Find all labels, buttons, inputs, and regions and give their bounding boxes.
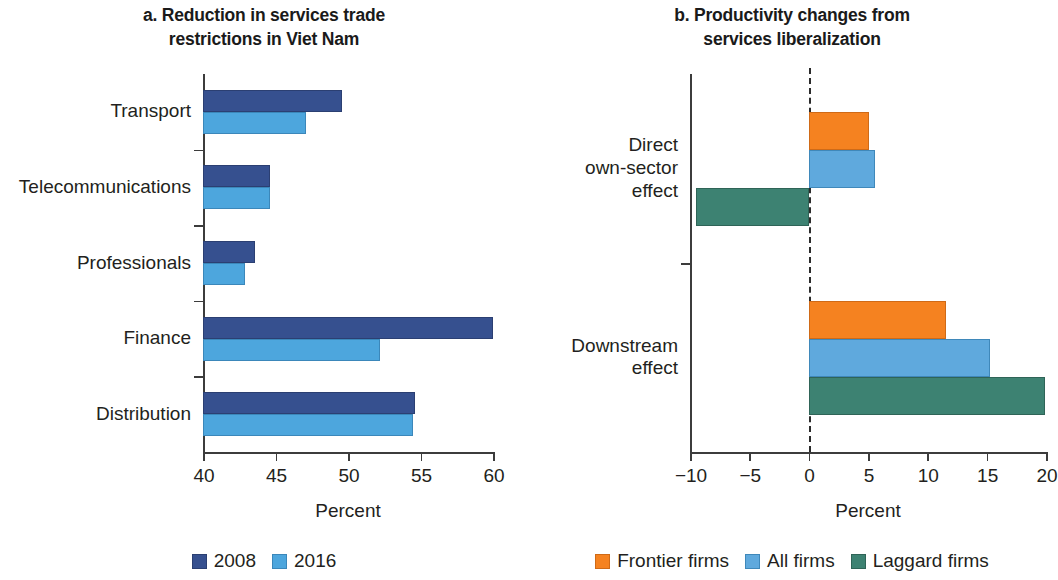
bar-2016-professionals — [203, 263, 245, 285]
y-category-label: Finance — [0, 327, 191, 350]
bar-laggard-firms-downstream-effect — [809, 377, 1045, 415]
y-category-label: Distribution — [0, 403, 191, 426]
panel-b-legend: Frontier firms All firms Laggard firms — [528, 550, 1056, 572]
x-tick — [690, 452, 692, 461]
x-tick — [421, 452, 423, 461]
legend-label-2008: 2008 — [214, 550, 256, 572]
x-tick — [203, 452, 205, 461]
legend-label-frontier-firms: Frontier firms — [617, 550, 729, 572]
x-tick-label: −10 — [675, 465, 707, 487]
x-tick — [749, 452, 751, 461]
panel-b: b. Productivity changes from services li… — [528, 0, 1056, 580]
panel-a-plot-area: 4045505560PercentTransportTelecommunicat… — [203, 74, 493, 452]
x-axis-title: Percent — [690, 500, 1046, 522]
x-tick-label: −5 — [739, 465, 761, 487]
bar-all-firms-direct-own-sector-effect — [809, 150, 875, 188]
x-tick-label: 10 — [918, 465, 939, 487]
x-tick-label: 60 — [483, 465, 504, 487]
bar-laggard-firms-direct-own-sector-effect — [696, 188, 809, 226]
x-tick-label: 55 — [411, 465, 432, 487]
legend-item-laggard-firms: Laggard firms — [851, 550, 989, 572]
legend-label-all-firms: All firms — [767, 550, 835, 572]
x-tick — [1046, 452, 1048, 461]
panel-b-title-line1: b. Productivity changes from — [674, 5, 910, 25]
y-category-tick — [194, 225, 203, 227]
panel-a-title-line1: a. Reduction in services trade — [143, 5, 385, 25]
legend-item-2008: 2008 — [192, 550, 256, 572]
x-tick — [927, 452, 929, 461]
panel-b-plot-area: −10−505101520PercentDirectown-sectoreffe… — [690, 74, 1046, 452]
legend-swatch-2016-icon — [272, 554, 287, 569]
y-category-label: Telecommunications — [0, 176, 191, 199]
legend-swatch-laggard-firms-icon — [851, 554, 866, 569]
panel-a-title: a. Reduction in services trade restricti… — [0, 4, 528, 51]
bar-2016-transport — [203, 112, 306, 134]
x-tick — [809, 452, 811, 461]
x-tick-label: 20 — [1036, 465, 1057, 487]
bar-frontier-firms-downstream-effect — [809, 301, 947, 339]
legend-item-all-firms: All firms — [745, 550, 835, 572]
bar-frontier-firms-direct-own-sector-effect — [809, 112, 870, 150]
x-tick-label: 45 — [266, 465, 287, 487]
y-category-tick — [681, 263, 690, 265]
legend-label-2016: 2016 — [294, 550, 336, 572]
x-tick — [276, 452, 278, 461]
x-tick-label: 0 — [804, 465, 815, 487]
legend-swatch-frontier-firms-icon — [595, 554, 610, 569]
bar-2008-professionals — [203, 241, 255, 263]
legend-swatch-all-firms-icon — [745, 554, 760, 569]
panel-a: a. Reduction in services trade restricti… — [0, 0, 528, 580]
x-tick-label: 50 — [338, 465, 359, 487]
bar-2008-distribution — [203, 392, 415, 414]
y-category-label: Transport — [0, 100, 191, 123]
y-category-label: Directown-sectoreffect — [528, 134, 678, 202]
x-tick-label: 15 — [977, 465, 998, 487]
y-category-tick — [194, 376, 203, 378]
x-tick — [348, 452, 350, 461]
bar-2008-finance — [203, 317, 493, 339]
panel-a-legend: 2008 2016 — [0, 550, 528, 572]
y-category-label: Downstreameffect — [528, 335, 678, 381]
legend-swatch-2008-icon — [192, 554, 207, 569]
y-category-tick — [194, 150, 203, 152]
panel-b-title: b. Productivity changes from services li… — [528, 4, 1056, 51]
legend-item-frontier-firms: Frontier firms — [595, 550, 729, 572]
bar-2016-finance — [203, 339, 380, 361]
y-category-label: Professionals — [0, 252, 191, 275]
bar-all-firms-downstream-effect — [809, 339, 991, 377]
bar-2016-telecommunications — [203, 187, 270, 209]
y-category-tick — [194, 301, 203, 303]
panel-a-title-line2: restrictions in Viet Nam — [0, 28, 528, 52]
bar-2016-distribution — [203, 414, 413, 436]
y-axis-line — [690, 74, 692, 452]
x-tick — [868, 452, 870, 461]
legend-label-laggard-firms: Laggard firms — [873, 550, 989, 572]
legend-item-2016: 2016 — [272, 550, 336, 572]
x-tick-label: 5 — [864, 465, 875, 487]
x-axis-title: Percent — [203, 500, 493, 522]
panel-b-title-line2: services liberalization — [528, 28, 1056, 52]
x-tick-label: 40 — [193, 465, 214, 487]
x-tick — [987, 452, 989, 461]
x-tick — [493, 452, 495, 461]
bar-2008-telecommunications — [203, 165, 270, 187]
bar-2008-transport — [203, 90, 342, 112]
